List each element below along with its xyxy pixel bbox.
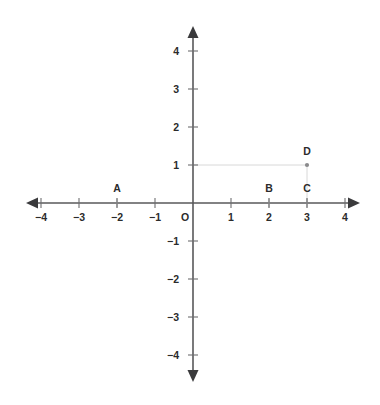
point-A-label: A: [113, 182, 121, 194]
x-axis-left-arrowhead-icon: [26, 198, 38, 209]
y-tick-label--1: −1: [167, 235, 179, 247]
plotted-points-group: A B C D: [113, 145, 311, 208]
coordinate-plane-svg: −4 −3 −2 −1 1 2 3 4 4 3 2 1 −1 −2 −3 −4 …: [0, 0, 380, 405]
y-tick-label-3: 3: [173, 83, 179, 95]
coordinate-plane-figure: −4 −3 −2 −1 1 2 3 4 4 3 2 1 −1 −2 −3 −4 …: [0, 0, 380, 405]
y-tick-label--3: −3: [167, 311, 179, 323]
y-tick-label-1: 1: [173, 159, 179, 171]
x-tick-label--2: −2: [111, 211, 123, 223]
point-B-label: B: [265, 182, 273, 194]
x-tick-label-2: 2: [266, 211, 272, 223]
y-tick-label-4: 4: [173, 45, 179, 57]
guide-lines-group: [193, 165, 307, 203]
x-tick-label--1: −1: [149, 211, 161, 223]
x-tick-label--4: −4: [35, 211, 47, 223]
y-tick-label--4: −4: [167, 349, 179, 361]
point-D-label: D: [303, 145, 311, 157]
point-C-label: C: [303, 182, 311, 194]
x-tick-label--3: −3: [73, 211, 85, 223]
x-tick-label-4: 4: [342, 211, 348, 223]
x-tick-label-1: 1: [228, 211, 234, 223]
y-tick-label--2: −2: [167, 273, 179, 285]
y-tick-label-2: 2: [173, 121, 179, 133]
y-axis-down-arrowhead-icon: [188, 370, 199, 382]
point-D[interactable]: D: [303, 145, 311, 167]
x-axis-tick-labels-group: −4 −3 −2 −1 1 2 3 4: [35, 211, 348, 223]
axes-group: [26, 26, 360, 382]
y-axis-up-arrowhead-icon: [188, 26, 199, 38]
origin-label: O: [181, 211, 189, 223]
x-axis-right-arrowhead-icon: [348, 198, 360, 209]
x-tick-label-3: 3: [304, 211, 310, 223]
point-D-marker: [305, 163, 309, 167]
